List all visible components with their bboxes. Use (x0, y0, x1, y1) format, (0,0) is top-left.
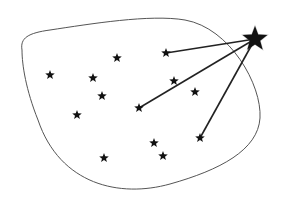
star-icon (72, 110, 82, 119)
star-icon (190, 87, 200, 96)
star-icon (161, 48, 171, 57)
connector-line (166, 39, 255, 53)
interior-stars (45, 48, 205, 162)
connector-line (139, 39, 255, 108)
star-icon (112, 53, 122, 62)
star-icon (158, 151, 168, 160)
star-icon (134, 103, 144, 112)
star-icon (45, 70, 55, 79)
star-icon (88, 73, 98, 82)
star-icon (99, 153, 109, 162)
external-star-icon (241, 25, 269, 51)
connector-line (200, 39, 255, 138)
star-icon (149, 138, 159, 147)
star-icon (195, 133, 205, 142)
diagram-canvas (0, 0, 284, 209)
star-icon (97, 91, 107, 100)
connector-lines (139, 39, 255, 138)
star-icon (169, 76, 179, 85)
